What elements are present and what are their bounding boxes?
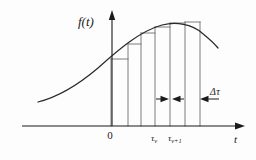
delta-symbol: Δ	[209, 86, 216, 97]
tau-symbol: τ	[216, 86, 220, 97]
span-arrowhead-left	[172, 96, 181, 102]
origin-label: 0	[107, 129, 113, 141]
axes-group	[22, 15, 241, 126]
tau-nu-subscript: ν	[154, 137, 157, 144]
function-plot-diagram: f(t) t 0 τν τν+1 Δτ	[0, 0, 256, 160]
figure-container: f(t) t 0 τν τν+1 Δτ	[0, 0, 256, 160]
y-axis-label: f(t)	[78, 14, 94, 29]
delta-tau-leader-arrowhead	[200, 96, 209, 102]
tau-nu-plus-1-subscript: ν+1	[171, 137, 182, 144]
y-axis-arrowhead	[109, 10, 115, 20]
delta-tau-label: Δτ	[209, 86, 220, 97]
span-arrowhead-right	[161, 96, 170, 102]
x-tick-label-tau-nu-plus-1: τν+1	[168, 133, 182, 144]
riemann-rectangles-group	[111, 22, 200, 126]
x-axis-arrowhead	[235, 123, 245, 130]
x-axis-label: t	[234, 133, 238, 145]
x-tick-label-tau-nu: τν	[151, 133, 157, 144]
